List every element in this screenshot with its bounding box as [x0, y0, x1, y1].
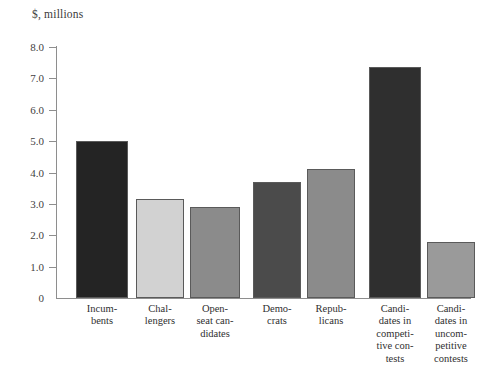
y-axis-tick-label: 4.0	[14, 167, 44, 179]
bar	[76, 141, 128, 298]
x-axis-label-line: Open-	[181, 303, 249, 315]
chart-axis-title: $, millions	[32, 8, 83, 20]
x-axis-label-line: seat can-	[181, 315, 249, 327]
bar	[253, 182, 301, 298]
y-axis-tick-label: 3.0	[14, 198, 44, 210]
x-axis-label-line: uncom-	[417, 328, 485, 340]
x-axis-label-line: dates in	[417, 315, 485, 327]
y-axis-tick	[49, 110, 56, 111]
x-axis-label: Open-seat can-didates	[181, 303, 249, 340]
bar	[136, 199, 184, 298]
bar	[369, 67, 421, 298]
x-axis-label-line: petitive	[417, 340, 485, 352]
x-axis-label: Repub-licans	[297, 303, 365, 328]
y-axis-tick	[49, 141, 56, 142]
y-axis-tick-label: 6.0	[14, 104, 44, 116]
bar-chart: $, millions 8.07.06.05.04.03.02.01.00 In…	[0, 0, 492, 377]
y-axis-tick	[49, 173, 56, 174]
x-axis-label-line: contests	[417, 353, 485, 365]
y-axis-tick	[49, 267, 56, 268]
y-axis-tick	[49, 204, 56, 205]
y-axis-tick-label: 5.0	[14, 135, 44, 147]
y-axis-tick-label: 2.0	[14, 229, 44, 241]
y-axis-tick-label: 0	[14, 292, 44, 304]
bar	[427, 242, 475, 298]
x-axis-label-line: licans	[297, 315, 365, 327]
x-axis-label-line: didates	[181, 328, 249, 340]
x-axis-label-line: Repub-	[297, 303, 365, 315]
bar	[190, 207, 240, 298]
x-axis-label-line: Candi-	[417, 303, 485, 315]
y-axis-tick	[49, 47, 56, 48]
y-axis-tick	[49, 235, 56, 236]
x-axis-label: Candi-dates inuncom-petitivecontests	[417, 303, 485, 365]
y-axis-tick-label: 1.0	[14, 261, 44, 273]
y-axis-tick-label: 7.0	[14, 72, 44, 84]
bar	[307, 169, 355, 298]
y-axis-line	[56, 46, 57, 299]
x-axis-line	[56, 298, 471, 299]
y-axis-tick-label: 8.0	[14, 41, 44, 53]
y-axis-tick	[49, 78, 56, 79]
